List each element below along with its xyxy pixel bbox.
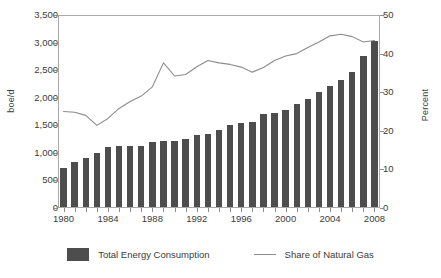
x-tick-mark (374, 208, 375, 212)
y-tick-label-right: 30 (383, 87, 394, 97)
x-tick-mark (219, 208, 220, 212)
y-tick-label-right: 20 (383, 126, 394, 136)
x-tick-label: 1984 (97, 214, 118, 224)
chart-container: boe/d Percent 05001,0001,5002,0002,5003,… (0, 0, 441, 278)
x-tick-mark (341, 208, 342, 212)
x-tick-mark (252, 208, 253, 212)
y-axis-label-left: boe/d (6, 79, 16, 123)
x-tick-label: 1992 (186, 214, 207, 224)
x-tick-label: 2008 (364, 214, 385, 224)
plot-area (58, 15, 380, 208)
x-tick-mark (330, 208, 331, 212)
x-tick-mark (64, 208, 65, 212)
y-tick-mark-left (54, 208, 58, 209)
x-tick-label: 1988 (142, 214, 163, 224)
x-tick-mark (86, 208, 87, 212)
legend-item-share-of-natural-gas: Share of Natural Gas (254, 249, 374, 260)
y-tick-mark-right (380, 208, 384, 209)
x-tick-mark (141, 208, 142, 212)
x-tick-mark (308, 208, 309, 212)
bar-swatch-icon (67, 248, 89, 261)
x-tick-mark (108, 208, 109, 212)
x-tick-mark (130, 208, 131, 212)
x-tick-label: 1996 (231, 214, 252, 224)
y-tick-mark-right (380, 169, 384, 170)
x-tick-mark (286, 208, 287, 212)
legend-label-share-of-natural-gas: Share of Natural Gas (285, 249, 374, 260)
x-tick-mark (186, 208, 187, 212)
x-tick-label: 1980 (53, 214, 74, 224)
x-tick-label: 2004 (319, 214, 340, 224)
x-tick-mark (297, 208, 298, 212)
line-series (58, 15, 380, 208)
x-tick-mark (363, 208, 364, 212)
x-tick-mark (208, 208, 209, 212)
legend-label-total-energy-consumption: Total Energy Consumption (98, 249, 209, 260)
x-tick-mark (319, 208, 320, 212)
y-axis-label-right: Percent (420, 83, 430, 127)
x-tick-mark (163, 208, 164, 212)
x-tick-mark (75, 208, 76, 212)
line-swatch-icon (254, 254, 276, 255)
y-tick-mark-right (380, 92, 384, 93)
y-tick-label-right: 50 (383, 10, 394, 20)
x-tick-mark (152, 208, 153, 212)
share-of-natural-gas-line (64, 34, 375, 125)
x-tick-mark (275, 208, 276, 212)
y-tick-mark-right (380, 54, 384, 55)
x-tick-mark (263, 208, 264, 212)
legend-item-total-energy-consumption: Total Energy Consumption (67, 248, 209, 261)
x-tick-mark (241, 208, 242, 212)
y-tick-label-right: 40 (383, 49, 394, 59)
x-tick-label: 2000 (275, 214, 296, 224)
x-tick-mark (97, 208, 98, 212)
x-tick-mark (175, 208, 176, 212)
chart-legend: Total Energy Consumption Share of Natura… (0, 243, 441, 265)
y-tick-mark-right (380, 15, 384, 16)
x-tick-mark (119, 208, 120, 212)
y-tick-label-right: 10 (383, 164, 394, 174)
y-tick-mark-right (380, 131, 384, 132)
x-tick-mark (352, 208, 353, 212)
x-tick-mark (230, 208, 231, 212)
x-tick-mark (197, 208, 198, 212)
